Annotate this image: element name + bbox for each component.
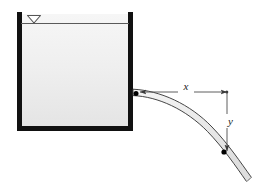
jet-stream-band: [133, 89, 252, 181]
jet-trajectory-diagram: x y: [0, 0, 266, 193]
tank-interior-fill: [20, 14, 131, 129]
orifice-exit-point: [134, 91, 139, 96]
y-dimension-label: y: [227, 115, 233, 127]
figure-container: x y: [0, 0, 266, 193]
x-dimension-label: x: [183, 80, 189, 92]
jet-measurement-point: [221, 149, 226, 154]
